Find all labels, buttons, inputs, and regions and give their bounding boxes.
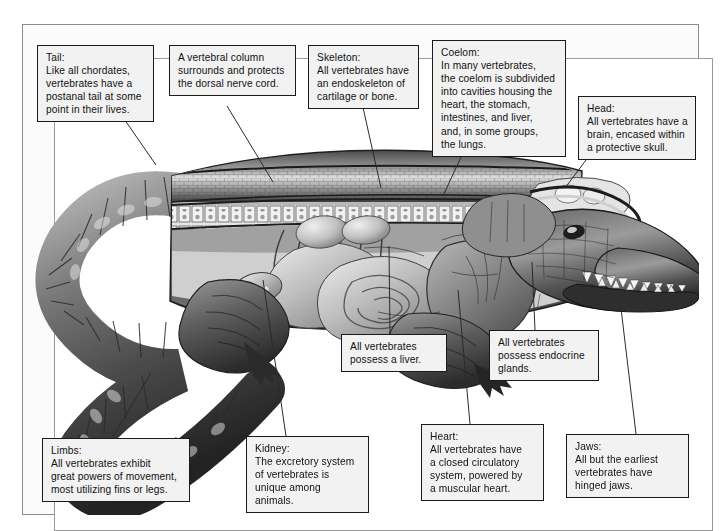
- callout-skeleton: Skeleton: All vertebrates have an endosk…: [308, 45, 419, 109]
- callout-coelom: Coelom: In many vertebrates, the coelom …: [432, 40, 566, 157]
- callout-tail: Tail: Like all chordates, vertebrates ha…: [37, 45, 154, 122]
- callout-jaws: Jaws: All but the earliest vertebrates h…: [566, 434, 689, 498]
- callout-kidney: Kidney: The excretory system of vertebra…: [246, 436, 369, 513]
- callout-limbs: Limbs: All vertebrates exhibit great pow…: [42, 438, 190, 502]
- callout-vertebral-column: A vertebral column surrounds and protect…: [169, 45, 296, 96]
- callout-head: Head: All vertebrates have a brain, enca…: [578, 96, 696, 160]
- callout-liver: All vertebrates possess a liver.: [341, 334, 447, 372]
- callout-endocrine: All vertebrates possess endocrine glands…: [489, 330, 599, 381]
- callout-heart: Heart: All vertebrates have a closed cir…: [421, 424, 544, 501]
